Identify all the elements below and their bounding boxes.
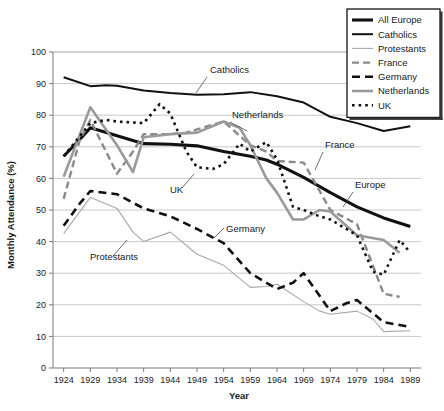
y-tick-label: 80 [36, 110, 46, 120]
legend-label-france: France [378, 57, 408, 68]
y-tick-labels: 0102030405060708090100 [31, 47, 46, 373]
legend-label-netherlands: Netherlands [378, 85, 429, 96]
annotation-leader-line [315, 152, 323, 170]
annotation-label: Catholics [210, 64, 249, 75]
series-line-protestants [64, 197, 411, 331]
y-tick-label: 0 [41, 363, 46, 373]
chart-legend: All EuropeCatholicsProtestantsFranceGerm… [347, 9, 443, 120]
annotation-label: France [325, 139, 355, 150]
legend-label-germany: Germany [378, 71, 417, 82]
x-tick-label: 1984 [374, 375, 394, 385]
x-tick-label: 1979 [347, 375, 367, 385]
y-tick-label: 40 [36, 237, 46, 247]
x-tick-label: 1929 [80, 375, 100, 385]
annotation-leader-line [182, 174, 194, 188]
y-tick-label: 20 [36, 300, 46, 310]
x-tick-label: 1964 [267, 375, 287, 385]
y-tick-label: 90 [36, 79, 46, 89]
annotation-label: Netherlands [232, 109, 283, 120]
annotation-leader-line [196, 77, 207, 93]
y-tick-label: 30 [36, 268, 46, 278]
x-tick-label: 1924 [54, 375, 74, 385]
legend-label-all-europe: All Europe [378, 14, 422, 25]
x-tick-label: 1989 [400, 375, 420, 385]
line-chart: 0102030405060708090100 19241929193419391… [0, 0, 444, 411]
y-tick-label: 100 [31, 47, 46, 57]
annotation-leader-line [230, 122, 247, 131]
annotation-label: Protestants [90, 251, 138, 262]
y-tick-label: 70 [36, 142, 46, 152]
annotation-label: Europe [355, 179, 386, 190]
y-tick-label: 10 [36, 332, 46, 342]
chart-container: 0102030405060708090100 19241929193419391… [0, 0, 444, 411]
x-tick-label: 1934 [107, 375, 127, 385]
y-tick-label: 50 [36, 205, 46, 215]
x-tick-label: 1959 [240, 375, 260, 385]
legend-label-uk: UK [378, 100, 392, 111]
x-tick-label: 1949 [187, 375, 207, 385]
y-tick-label: 60 [36, 174, 46, 184]
annotation-leader-line [214, 228, 224, 238]
annotation-label: UK [170, 184, 184, 195]
legend-label-protestants: Protestants [378, 43, 426, 54]
x-tick-labels: 1924192919341939194419491954195919641969… [54, 375, 421, 385]
x-tick-label: 1939 [134, 375, 154, 385]
x-axis-title: Year [229, 390, 249, 401]
x-tick-label: 1974 [320, 375, 340, 385]
y-axis-title: Monthly Attendance (%) [5, 161, 16, 269]
annotation-label: Germany [226, 223, 265, 234]
legend-label-catholics: Catholics [378, 29, 417, 40]
x-tick-label: 1954 [214, 375, 234, 385]
x-tick-label: 1944 [160, 375, 180, 385]
x-tick-label: 1969 [294, 375, 314, 385]
